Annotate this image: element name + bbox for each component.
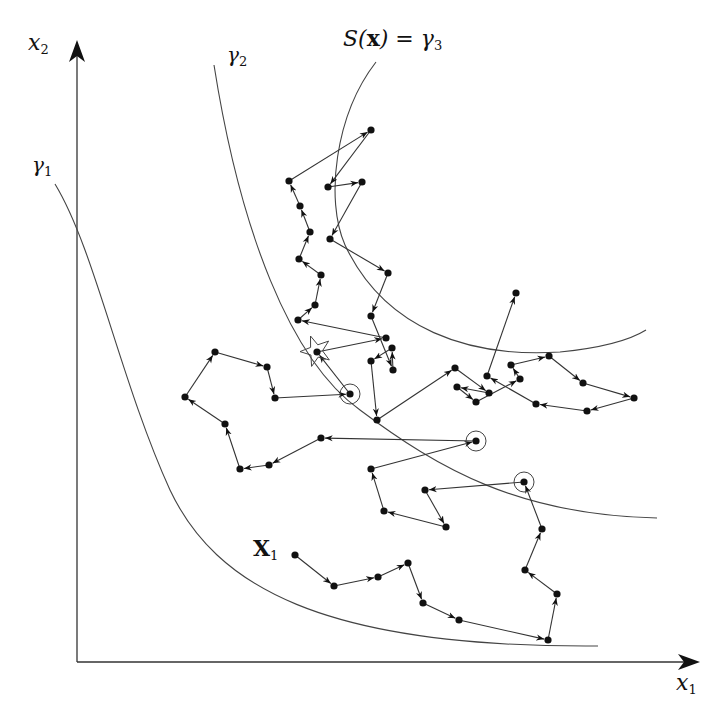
curve-gamma3 <box>335 62 646 353</box>
trajectory-step-arrow <box>299 236 308 259</box>
y-axis-label: x2 <box>28 32 49 56</box>
trajectory-step-arrow <box>372 473 384 511</box>
sample-point <box>483 372 490 379</box>
sample-point <box>630 394 637 401</box>
trajectory-step-arrow <box>330 239 385 271</box>
sample-point <box>472 398 479 405</box>
sample-point <box>404 559 411 566</box>
trajectory-step-arrow <box>583 383 630 397</box>
sample-point <box>451 364 458 371</box>
trajectory-step-arrow <box>372 273 388 312</box>
sample-point <box>583 407 590 414</box>
sample-point <box>373 416 380 423</box>
sample-point <box>265 461 272 468</box>
sample-point <box>211 348 218 355</box>
sample-point <box>507 361 514 368</box>
gamma2-label: γ2 <box>227 45 247 68</box>
trajectory-step-arrow <box>548 598 556 640</box>
sample-point <box>326 235 333 242</box>
trajectory-step-arrow <box>188 399 225 424</box>
sample-point <box>367 357 374 364</box>
level-set-diagram <box>0 0 728 709</box>
sample-point <box>380 507 387 514</box>
curve-gamma2 <box>214 65 657 518</box>
trajectory-step-arrow <box>525 486 542 529</box>
trajectory-step-arrow <box>317 339 382 352</box>
trajectory-step-arrow <box>377 370 452 420</box>
trajectory-step-arrow <box>423 603 455 618</box>
trajectory-step-arrow <box>185 355 213 397</box>
sample-point <box>544 636 551 643</box>
sample-point <box>455 616 462 623</box>
trajectory-step-arrow <box>511 357 545 365</box>
gamma1-label: γ1 <box>32 155 52 178</box>
sample-point <box>295 255 302 262</box>
path-from-circle-3 <box>289 130 634 420</box>
trajectory-step-arrow <box>540 405 587 411</box>
sample-point <box>388 344 395 351</box>
sample-point <box>579 379 586 386</box>
sample-point <box>313 348 320 355</box>
sample-point <box>294 316 301 323</box>
curve-gamma1 <box>55 184 598 646</box>
sample-point <box>520 478 527 485</box>
x-axis-label: x1 <box>676 672 697 696</box>
trajectory-step-arrow <box>378 565 404 577</box>
trajectory-step-arrow <box>215 352 263 366</box>
trajectory-step-arrow <box>371 442 472 469</box>
trajectory-step-arrow <box>425 490 444 524</box>
gamma3-label: S(x) = γ3 <box>343 27 442 52</box>
trajectory-step-arrow <box>295 555 331 584</box>
sample-point <box>442 523 449 530</box>
trajectory-step-arrow <box>289 132 368 181</box>
sample-point <box>306 228 313 235</box>
axes <box>69 40 700 670</box>
trajectory-step-arrow <box>429 482 524 490</box>
trajectory-step-arrow <box>302 321 386 338</box>
sample-point <box>317 434 324 441</box>
sample-point <box>512 289 519 296</box>
sample-point <box>221 420 228 427</box>
sample-point <box>317 271 324 278</box>
sample-point <box>553 590 560 597</box>
sample-point <box>296 202 303 209</box>
trajectory-step-arrow <box>267 367 274 394</box>
special-markers <box>300 336 534 492</box>
sample-point <box>545 352 552 359</box>
sample-point <box>236 465 243 472</box>
start-point-label: X1 <box>253 537 278 562</box>
trajectory-step-arrow <box>244 465 269 468</box>
trajectory-step-arrow <box>334 578 374 586</box>
trajectory-step-arrow <box>528 572 557 594</box>
trajectory-step-arrow <box>459 620 544 639</box>
sample-point <box>453 383 460 390</box>
sample-point <box>271 394 278 401</box>
sample-point <box>421 486 428 493</box>
trajectory-step-arrow <box>315 279 320 305</box>
sample-point <box>263 363 270 370</box>
trajectory-step-arrow <box>275 394 346 398</box>
trajectory-step-arrow <box>408 563 422 599</box>
sample-point <box>538 525 545 532</box>
sample-point <box>382 334 389 341</box>
trajectory-step-arrow <box>226 428 240 469</box>
sample-point <box>358 178 365 185</box>
sample-point <box>389 366 396 373</box>
trajectory-step-arrow <box>328 183 358 187</box>
trajectory-step-arrow <box>330 130 371 184</box>
path-from-circle-1 <box>371 442 524 527</box>
sample-point <box>419 599 426 606</box>
path-from-X1 <box>295 486 557 640</box>
trajectory-step-arrow <box>371 316 391 366</box>
sample-point <box>384 269 391 276</box>
sample-point <box>346 390 353 397</box>
trajectories <box>181 126 637 643</box>
sample-point <box>516 375 523 382</box>
sample-point <box>472 437 479 444</box>
sample-point <box>532 400 539 407</box>
sample-point <box>181 393 188 400</box>
sample-point <box>521 566 528 573</box>
sample-point <box>485 389 492 396</box>
trajectory-step-arrow <box>591 398 634 410</box>
sample-point <box>367 126 374 133</box>
